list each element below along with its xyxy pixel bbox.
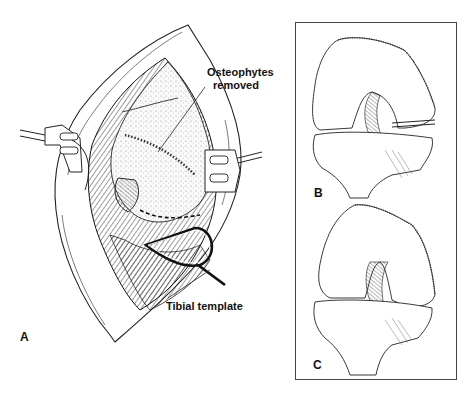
tibial-template-label: Tibial template — [166, 300, 243, 313]
panel-letter-c: C — [313, 358, 322, 372]
panel-letter-a: A — [20, 330, 29, 344]
surgical-illustration-figure: Osteophytes removed Tibial template A B … — [0, 0, 475, 395]
right-retractor — [205, 150, 262, 192]
panel-bc-frame — [295, 22, 457, 380]
osteophytes-label: Osteophytes removed — [207, 66, 274, 92]
osteophytes-label-line2: removed — [207, 79, 274, 92]
osteophytes-label-line1: Osteophytes — [207, 66, 274, 79]
panel-letter-b: B — [314, 186, 323, 200]
